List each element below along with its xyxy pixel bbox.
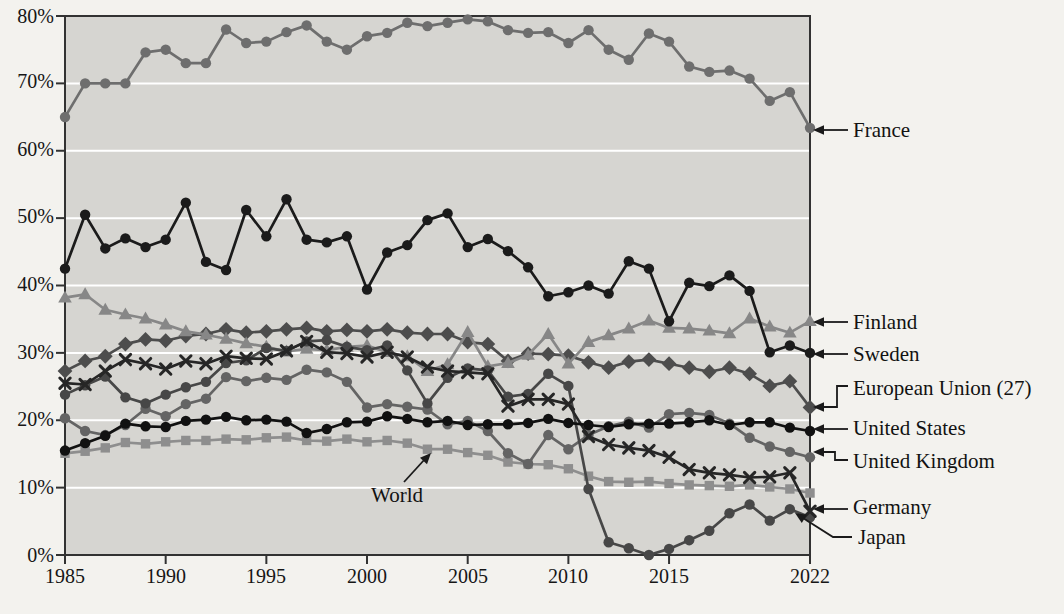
- data-point: [262, 433, 271, 442]
- data-point: [744, 286, 754, 296]
- data-point: [564, 464, 573, 473]
- data-point: [160, 422, 170, 432]
- data-point: [261, 414, 271, 424]
- data-point: [744, 499, 754, 509]
- data-point: [241, 38, 251, 48]
- data-point: [342, 44, 352, 54]
- data-point: [483, 419, 493, 429]
- data-point: [765, 417, 775, 427]
- data-point: [422, 215, 432, 225]
- data-point: [443, 445, 452, 454]
- data-point: [704, 67, 714, 77]
- y-tick-label: 10%: [0, 475, 54, 499]
- data-point: [342, 231, 352, 241]
- data-point: [80, 426, 90, 436]
- data-point: [563, 418, 573, 428]
- data-point: [342, 434, 351, 443]
- data-point: [362, 437, 371, 446]
- data-point: [160, 411, 170, 421]
- data-point: [382, 436, 391, 445]
- data-point: [765, 96, 775, 106]
- data-point: [483, 451, 492, 460]
- data-point: [160, 44, 170, 54]
- data-point: [301, 20, 311, 30]
- data-point: [181, 416, 191, 426]
- data-point: [261, 343, 271, 353]
- data-point: [322, 36, 332, 46]
- data-point: [785, 484, 794, 493]
- series-label-japan: Japan: [858, 524, 906, 550]
- data-point: [664, 409, 674, 419]
- data-point: [684, 408, 694, 418]
- data-point: [101, 443, 110, 452]
- data-point: [281, 27, 291, 37]
- x-tick-label: 2005: [428, 564, 508, 588]
- data-point: [120, 392, 130, 402]
- data-point: [724, 65, 734, 75]
- data-point: [60, 389, 70, 399]
- data-point: [201, 58, 211, 68]
- y-tick-label: 60%: [0, 137, 54, 161]
- data-point: [544, 460, 553, 469]
- data-point: [463, 420, 473, 430]
- data-point: [744, 417, 754, 427]
- data-point: [382, 399, 392, 409]
- data-point: [100, 431, 110, 441]
- data-point: [805, 426, 815, 436]
- data-point: [603, 422, 613, 432]
- data-point: [241, 205, 251, 215]
- y-tick-label: 50%: [0, 204, 54, 228]
- data-point: [463, 14, 473, 24]
- data-point: [543, 27, 553, 37]
- data-point: [644, 550, 654, 560]
- data-point: [644, 477, 653, 486]
- data-point: [724, 508, 734, 518]
- data-point: [382, 28, 392, 38]
- data-point: [664, 544, 674, 554]
- data-point: [422, 21, 432, 31]
- data-point: [744, 433, 754, 443]
- data-point: [181, 58, 191, 68]
- data-point: [201, 436, 210, 445]
- data-point: [543, 430, 553, 440]
- data-point: [543, 414, 553, 424]
- data-point: [442, 208, 452, 218]
- world-annotation-label: World: [371, 483, 423, 507]
- data-point: [603, 44, 613, 54]
- data-point: [181, 399, 191, 409]
- data-point: [463, 242, 473, 252]
- data-point: [402, 240, 412, 250]
- data-point: [241, 376, 251, 386]
- data-point: [322, 237, 332, 247]
- data-point: [80, 438, 90, 448]
- data-point: [140, 398, 150, 408]
- data-point: [301, 365, 311, 375]
- data-point: [603, 537, 613, 547]
- data-point: [141, 439, 150, 448]
- data-point: [181, 197, 191, 207]
- data-point: [805, 348, 815, 358]
- arrowhead: [813, 402, 824, 412]
- data-point: [342, 377, 352, 387]
- data-point: [281, 194, 291, 204]
- data-point: [805, 488, 814, 497]
- data-point: [644, 263, 654, 273]
- data-point: [362, 31, 372, 41]
- data-point: [442, 416, 452, 426]
- data-point: [603, 288, 613, 298]
- data-point: [684, 61, 694, 71]
- data-point: [261, 231, 271, 241]
- data-point: [362, 416, 372, 426]
- data-point: [261, 373, 271, 383]
- data-point: [664, 479, 673, 488]
- data-point: [221, 434, 230, 443]
- data-point: [704, 526, 714, 536]
- data-point: [684, 480, 693, 489]
- series-label-finland: Finland: [853, 309, 917, 335]
- data-point: [805, 452, 815, 462]
- data-point: [523, 262, 533, 272]
- data-point: [80, 78, 90, 88]
- data-point: [221, 24, 231, 34]
- data-point: [322, 335, 332, 345]
- series-label-france: France: [853, 117, 910, 143]
